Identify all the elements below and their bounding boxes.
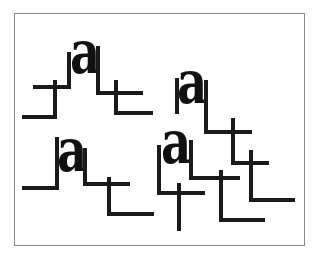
line xyxy=(67,52,71,88)
line xyxy=(55,137,59,189)
line xyxy=(96,91,143,95)
line xyxy=(231,118,235,165)
line xyxy=(22,186,59,190)
line xyxy=(219,218,265,222)
line xyxy=(22,115,57,119)
line xyxy=(177,183,181,231)
line xyxy=(107,212,154,216)
line xyxy=(33,85,71,89)
line xyxy=(204,130,252,134)
line xyxy=(189,176,240,180)
line xyxy=(114,80,118,115)
line xyxy=(249,198,295,202)
line xyxy=(83,148,87,185)
letter-a-2: a xyxy=(177,52,207,112)
letter-a-4: a xyxy=(161,112,191,172)
line xyxy=(249,150,253,200)
line xyxy=(157,145,161,195)
line xyxy=(204,80,208,133)
line xyxy=(219,170,223,222)
line xyxy=(189,140,193,179)
line xyxy=(53,80,57,118)
line xyxy=(107,177,111,216)
line xyxy=(157,191,205,195)
line xyxy=(114,111,153,115)
line xyxy=(96,46,100,94)
